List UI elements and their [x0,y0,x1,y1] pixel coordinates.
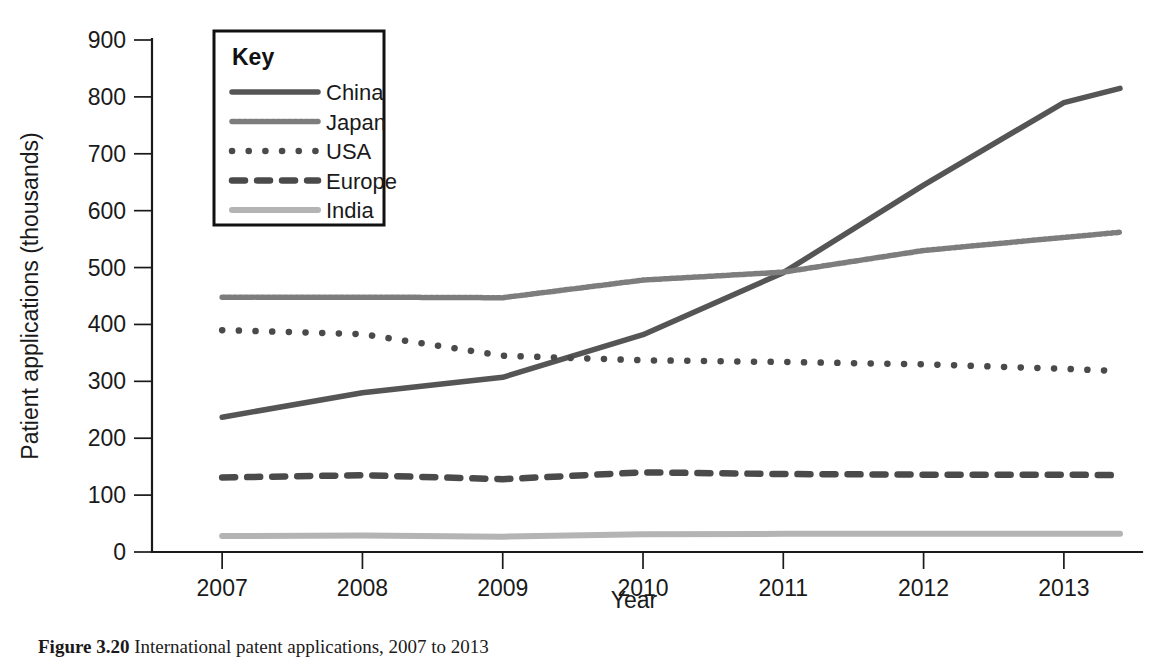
legend-label-usa: USA [326,139,372,164]
y-axis-title: Patient applications (thousands) [17,132,43,459]
y-tick-label: 400 [88,311,126,337]
figure-caption: Figure 3.20 International patent applica… [38,636,489,658]
y-axis-tick-group: 0100200300400500600700800900 [88,27,152,565]
y-tick-label: 500 [88,255,126,281]
series-line-usa [222,330,1120,371]
y-tick-label: 0 [113,539,126,565]
legend-label-japan: Japan [326,110,386,135]
figure-caption-label: Figure 3.20 [38,636,129,657]
series-line-japan [222,232,1120,297]
series-line-europe [222,472,1120,479]
x-axis-title: Year [611,587,658,613]
y-tick-label: 800 [88,84,126,110]
y-tick-label: 600 [88,198,126,224]
y-tick-label: 900 [88,27,126,53]
legend-label-europe: Europe [326,169,397,194]
x-tick-label: 2012 [898,575,949,601]
x-tick-label: 2007 [197,575,248,601]
y-tick-label: 700 [88,141,126,167]
series-line-india [222,534,1120,537]
x-tick-label: 2011 [759,575,808,601]
y-tick-label: 100 [88,482,126,508]
x-tick-label: 2013 [1038,575,1089,601]
legend-title: Key [232,44,274,70]
legend-label-china: China [326,80,384,105]
y-tick-label: 300 [88,368,126,394]
x-tick-label: 2008 [337,575,388,601]
y-tick-label: 200 [88,425,126,451]
x-tick-label: 2009 [477,575,528,601]
figure-caption-text: International patent applications, 2007 … [134,636,489,657]
line-chart: 0100200300400500600700800900 20072008200… [0,0,1150,620]
chart-legend: Key ChinaJapanUSAEuropeIndia [214,31,397,225]
legend-label-india: India [326,198,374,223]
